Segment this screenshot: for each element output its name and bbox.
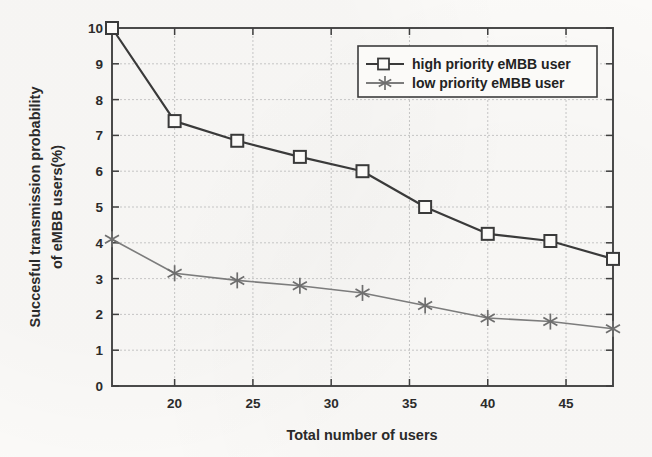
y-axis-tick-labels: 012345678910 [88,21,104,394]
chart-legend[interactable]: high priority eMBB user low priority eMB… [358,46,597,97]
x-tick-label: 45 [559,396,575,411]
y-tick-label: 2 [95,307,103,322]
data-point-marker [106,22,118,34]
chart-canvas: 012345678910 202530354045 Total number o… [0,0,652,457]
y-axis-title-line1: Succesful transmission probability [27,87,43,328]
chart-figure: 012345678910 202530354045 Total number o… [0,0,652,457]
data-point-marker [169,115,181,127]
y-tick-label: 0 [95,379,103,394]
data-point-marker [231,135,243,147]
y-tick-label: 7 [95,128,103,143]
y-gridlines [112,64,613,350]
y-tick-label: 10 [88,21,103,36]
data-point-marker [482,228,494,240]
data-point-marker [294,151,306,163]
x-tick-label: 25 [245,396,261,411]
y-tick-label: 1 [95,343,103,358]
data-point-marker [607,253,619,265]
legend-label-low-priority: low priority eMBB user [412,75,565,91]
x-tick-label: 40 [480,396,495,411]
x-axis-tick-labels: 202530354045 [167,396,574,411]
data-point-marker [418,297,432,313]
x-tick-label: 30 [324,396,339,411]
data-point-marker [544,235,556,247]
legend-marker-square [378,59,389,70]
y-tick-label: 5 [95,200,103,215]
y-tick-label: 9 [95,57,103,72]
figure-page: 012345678910 202530354045 Total number o… [0,0,652,457]
legend-label-high-priority: high priority eMBB user [412,56,571,72]
data-point-marker [419,201,431,213]
y-tick-label: 6 [95,164,103,179]
x-axis-title: Total number of users [286,427,437,443]
series-low-priority [105,231,620,337]
y-axis-title-line2: of eMBB users(%) [49,145,65,269]
data-point-marker [357,165,369,177]
y-tick-label: 4 [95,236,103,251]
y-tick-label: 3 [95,272,103,287]
series-line [112,239,613,329]
x-tick-label: 35 [402,396,418,411]
x-tick-label: 20 [167,396,182,411]
y-tick-label: 8 [95,93,103,108]
data-point-marker [105,231,119,247]
